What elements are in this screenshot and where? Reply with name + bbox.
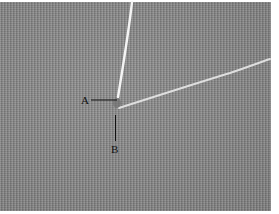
thread-right xyxy=(119,59,270,108)
label-b: B xyxy=(111,144,118,155)
thread-upper xyxy=(118,2,132,97)
annotation-overlay xyxy=(0,0,279,214)
label-a: A xyxy=(81,95,89,106)
